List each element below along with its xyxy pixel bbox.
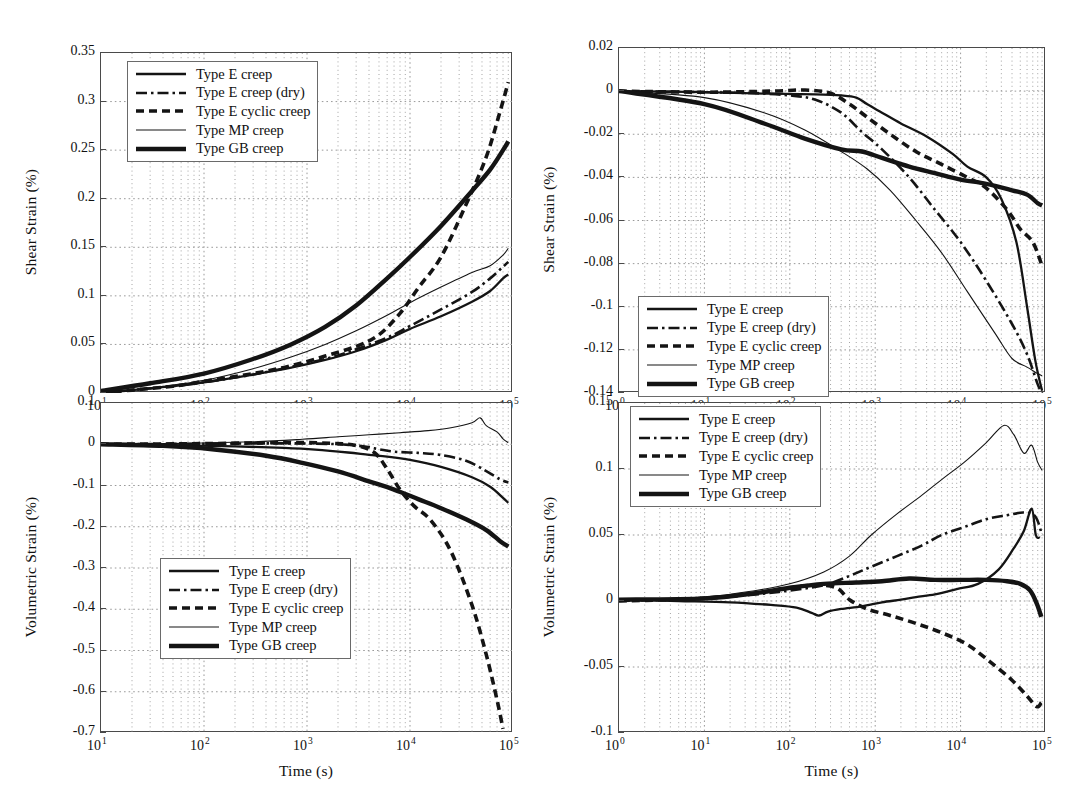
xtick-exponent: 1	[705, 736, 710, 746]
legend-line-swatch	[636, 449, 692, 463]
volumetric-strain-left-xtick: 105	[499, 736, 519, 754]
volumetric-strain-left-ytick: -0.3	[40, 558, 95, 574]
legend-line-swatch	[133, 123, 189, 137]
legend-item[interactable]: Type E creep	[166, 562, 344, 581]
legend-item[interactable]: Type GB creep	[166, 636, 344, 655]
xtick-base: 10	[293, 738, 307, 753]
xtick-exponent: 4	[411, 736, 416, 746]
legend-item-label: Type GB creep	[692, 485, 787, 502]
shear-strain-right-ytick: -0.04	[558, 167, 613, 183]
legend-item[interactable]: Type GB creep	[636, 484, 814, 503]
xtick-base: 10	[87, 398, 101, 413]
xtick-base: 10	[190, 738, 204, 753]
xtick-exponent: 2	[791, 736, 796, 746]
legend-item[interactable]: Type E creep (dry)	[644, 319, 822, 338]
volumetric-strain-right-ytick: -0.05	[558, 657, 613, 673]
legend-item[interactable]: Type MP creep	[636, 466, 814, 485]
series-line-4	[101, 418, 508, 444]
volumetric-strain-right-y-axis-title: Volumetric Strain (%)	[540, 402, 558, 732]
shear-strain-right-ytick: 0	[558, 81, 613, 97]
series-line-4	[101, 248, 508, 393]
shear-strain-left-ytick: 0.25	[40, 140, 95, 156]
legend-item-label: Type E creep	[700, 301, 783, 318]
legend-item-label: Type E creep (dry)	[700, 319, 816, 336]
legend-item[interactable]: Type E creep	[644, 300, 822, 319]
legend-item-label: Type E cyclic creep	[222, 600, 344, 617]
xtick-base: 10	[1032, 738, 1046, 753]
series-line-2	[101, 262, 508, 393]
volumetric-strain-left-x-axis-title: Time (s)	[100, 762, 512, 780]
legend-item[interactable]: Type E creep (dry)	[166, 581, 344, 600]
legend-item[interactable]: Type E cyclic creep	[644, 337, 822, 356]
legend-item[interactable]: Type E cyclic creep	[133, 102, 311, 121]
volumetric-strain-left-ytick: 0.1	[40, 393, 95, 409]
legend-line-swatch	[636, 412, 692, 426]
legend-item-label: Type MP creep	[700, 357, 795, 374]
volumetric-strain-right-xtick: 102	[776, 736, 796, 754]
series-line-3	[619, 90, 1042, 266]
legend-line-swatch	[166, 564, 222, 578]
shear-strain-right-ytick: -0.14	[558, 383, 613, 399]
xtick-exponent: 3	[876, 736, 881, 746]
xtick-base: 10	[776, 738, 790, 753]
legend-item[interactable]: Type MP creep	[166, 618, 344, 637]
legend-item[interactable]: Type GB creep	[133, 139, 311, 158]
series-line-1	[101, 444, 508, 503]
xtick-base: 10	[690, 738, 704, 753]
legend-item-label: Type MP creep	[222, 619, 317, 636]
xtick-base: 10	[861, 738, 875, 753]
legend-item[interactable]: Type MP creep	[133, 121, 311, 140]
series-line-5	[101, 141, 508, 391]
volumetric-strain-right-xtick: 103	[861, 736, 881, 754]
legend-item-label: Type E creep	[692, 411, 775, 428]
xtick-exponent: 3	[308, 736, 313, 746]
xtick-exponent: 2	[205, 736, 210, 746]
shear-strain-right-ytick: -0.1	[558, 297, 613, 313]
legend-line-swatch	[636, 468, 692, 482]
volumetric-strain-left-ytick: -0.6	[40, 682, 95, 698]
volumetric-strain-right-ytick: 0.1	[558, 459, 613, 475]
volumetric-strain-left-xtick: 102	[190, 736, 210, 754]
legend-item[interactable]: Type E creep (dry)	[636, 429, 814, 448]
shear-strain-right-ytick: 0.02	[558, 38, 613, 54]
legend-item[interactable]: Type E cyclic creep	[166, 599, 344, 618]
legend-item[interactable]: Type E cyclic creep	[636, 447, 814, 466]
volumetric-strain-left-xtick: 104	[396, 736, 416, 754]
legend-item-label: Type E creep	[222, 563, 305, 580]
legend-line-swatch	[133, 104, 189, 118]
xtick-base: 10	[499, 738, 513, 753]
legend-line-swatch	[644, 358, 700, 372]
legend-item[interactable]: Type E creep (dry)	[133, 84, 311, 103]
legend-line-swatch	[166, 639, 222, 653]
volumetric-strain-left-legend: Type E creepType E creep (dry)Type E cyc…	[160, 558, 351, 659]
volumetric-strain-right-ytick: 0.15	[558, 393, 613, 409]
legend-line-swatch	[133, 86, 189, 100]
xtick-base: 10	[87, 738, 101, 753]
shear-strain-right-ytick: -0.06	[558, 211, 613, 227]
legend-item[interactable]: Type E creep	[636, 410, 814, 429]
legend-line-swatch	[133, 67, 189, 81]
xtick-base: 10	[947, 738, 961, 753]
volumetric-strain-left-xtick: 103	[293, 736, 313, 754]
legend-item[interactable]: Type GB creep	[644, 374, 822, 393]
xtick-base: 10	[605, 398, 619, 413]
legend-item-label: Type GB creep	[189, 140, 284, 157]
legend-line-swatch	[166, 620, 222, 634]
xtick-exponent: 5	[1047, 396, 1052, 406]
volumetric-strain-left-ytick: -0.1	[40, 476, 95, 492]
xtick-exponent: 5	[514, 396, 519, 406]
series-line-5	[619, 91, 1042, 205]
volumetric-strain-right-xtick: 101	[690, 736, 710, 754]
series-line-1	[101, 274, 508, 393]
volumetric-strain-right-x-axis-title: Time (s)	[618, 762, 1045, 780]
legend-item[interactable]: Type MP creep	[644, 356, 822, 375]
volumetric-strain-right-ytick: -0.1	[558, 723, 613, 739]
xtick-exponent: 1	[102, 736, 107, 746]
legend-item-label: Type GB creep	[222, 637, 317, 654]
legend-item[interactable]: Type E creep	[133, 65, 311, 84]
series-line-3	[619, 585, 1041, 707]
shear-strain-left-ytick: 0.3	[40, 92, 95, 108]
shear-strain-right-ytick: -0.08	[558, 254, 613, 270]
shear-strain-right-legend: Type E creepType E creep (dry)Type E cyc…	[638, 296, 829, 397]
xtick-base: 10	[396, 738, 410, 753]
